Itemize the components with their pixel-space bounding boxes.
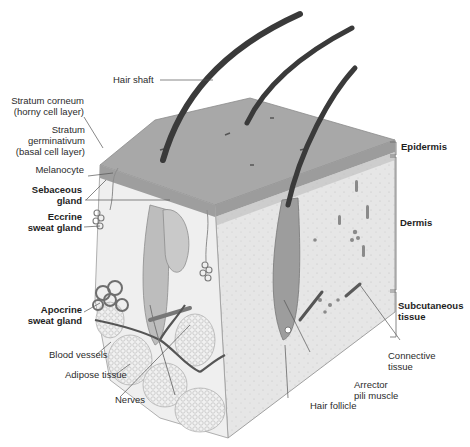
label-stratum-germinativum: Stratum germinativum (basal cell layer) (16, 124, 85, 157)
label-hair-shaft: Hair shaft (113, 74, 154, 85)
label-arrector-pili-muscle: Arrector pili muscle (354, 379, 398, 401)
label-dermis: Dermis (400, 217, 432, 228)
label-stratum-corneum: Stratum corneum (horny cell layer) (11, 95, 84, 117)
label-hair-follicle: Hair follicle (310, 400, 356, 411)
label-sebaceous-gland: Sebaceous gland (32, 184, 82, 206)
label-blood-vessels: Blood vessels (49, 349, 108, 360)
label-melanocyte: Melanocyte (35, 164, 84, 175)
label-adipose-tissue: Adipose tissue (65, 369, 127, 380)
label-epidermis: Epidermis (401, 141, 447, 152)
label-subcutaneous-tissue: Subcutaneous tissue (398, 300, 463, 322)
skin-diagram: Hair shaft Stratum corneum (horny cell l… (0, 0, 470, 447)
label-connective-tissue: Connective tissue (388, 350, 436, 372)
left-face (93, 165, 228, 438)
label-eccrine-sweat-gland: Eccrine sweat gland (28, 211, 82, 233)
label-nerves: Nerves (115, 394, 145, 405)
label-apocrine-sweat-gland: Apocrine sweat gland (28, 304, 82, 326)
